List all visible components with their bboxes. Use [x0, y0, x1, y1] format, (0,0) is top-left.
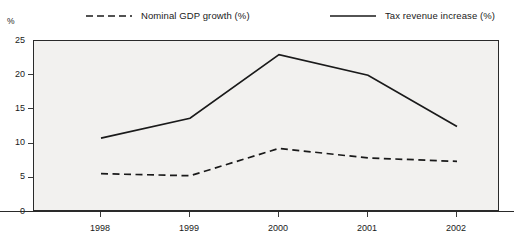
x-tick-mark: [456, 212, 457, 217]
x-axis-baseline: [0, 211, 514, 212]
x-axis: 19981999200020012002: [33, 211, 499, 249]
x-tick-label: 2000: [268, 223, 288, 233]
chart-container: Nominal GDP growth (%) Tax revenue incre…: [0, 0, 514, 249]
x-tick-label: 1999: [179, 223, 199, 233]
y-tick-label: 5: [20, 172, 25, 181]
y-axis: 2520151050: [0, 34, 33, 218]
x-tick-mark: [100, 212, 101, 217]
plot-lines: [34, 41, 500, 212]
dashed-line-swatch-icon: [86, 11, 132, 21]
y-tick-label: 15: [15, 104, 25, 113]
plot-area: [33, 40, 499, 211]
series-line-0: [101, 148, 457, 175]
solid-line-swatch-icon: [330, 11, 376, 21]
legend-item-nominal-gdp-growth: Nominal GDP growth (%): [86, 9, 250, 23]
y-axis-unit-label: %: [7, 17, 15, 26]
series-line-1: [101, 55, 457, 138]
x-tick-mark: [278, 212, 279, 217]
legend-label-nominal-gdp-growth: Nominal GDP growth (%): [141, 11, 250, 21]
y-tick-label: 10: [15, 138, 25, 147]
x-tick-label: 2002: [446, 223, 466, 233]
y-tick-label: 25: [15, 36, 25, 45]
legend-item-tax-revenue-increase: Tax revenue increase (%): [330, 9, 495, 23]
legend-label-tax-revenue-increase: Tax revenue increase (%): [385, 11, 495, 21]
x-tick-mark: [367, 212, 368, 217]
chart-legend: Nominal GDP growth (%) Tax revenue incre…: [0, 0, 514, 30]
x-tick-label: 2001: [357, 223, 377, 233]
x-tick-mark: [189, 212, 190, 217]
x-tick-label: 1998: [90, 223, 110, 233]
y-tick-label: 20: [15, 70, 25, 79]
